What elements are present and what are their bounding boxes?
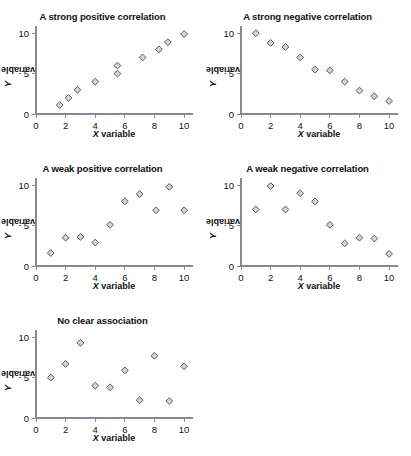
data-point [77,234,84,241]
data-point [156,46,163,53]
y-tick-label: 10 [18,180,29,191]
x-axis-label-symbol: X [93,281,99,291]
data-point [136,191,143,198]
data-point [356,234,363,241]
data-point [136,397,143,404]
data-point [166,398,173,405]
data-point [267,183,274,190]
y-tick-label: 10 [223,28,234,39]
y-tick-label: 0 [229,109,234,120]
y-axis-label: Y variable [6,342,20,406]
x-axis-label-symbol: X [298,129,304,139]
scatter-panel-1: A strong negative correlation02468100510… [205,0,410,152]
y-axis-label: Y variable [6,190,20,254]
data-point [252,30,259,37]
data-point [153,207,160,214]
data-point [341,240,348,247]
x-axis-label-word: variable [101,129,135,139]
data-point [326,67,333,74]
x-axis-label-symbol: X [93,433,99,443]
data-point [121,198,128,205]
y-tick-label: 0 [229,261,234,272]
y-tick-label: 0 [24,109,29,120]
data-point [56,102,63,109]
x-axis-label: X variable [239,281,399,291]
y-tick-label: 0 [24,413,29,424]
y-axis-label-word: variable [1,369,35,379]
x-axis-label-word: variable [306,281,340,291]
x-axis-label: X variable [34,433,194,443]
data-point [166,183,173,190]
data-point [312,198,319,205]
data-point [267,40,274,47]
data-point [47,374,54,381]
y-tick-label: 0 [24,261,29,272]
data-point [92,239,99,246]
data-point [77,339,84,346]
y-axis-label: Y variable [211,190,225,254]
data-point [151,352,158,359]
data-point [371,235,378,242]
data-series [56,31,187,109]
data-point [386,98,393,105]
data-point [47,250,54,257]
data-point [326,221,333,228]
data-point [341,78,348,85]
x-axis-label-word: variable [101,281,135,291]
data-point [297,54,304,61]
x-axis-label: X variable [239,129,399,139]
data-point [107,384,114,391]
data-point [92,78,99,85]
x-axis-label-word: variable [306,129,340,139]
data-point [121,367,128,374]
data-series [252,30,392,105]
y-axis-label-word: variable [206,65,240,75]
data-point [181,207,188,214]
y-tick-label: 10 [223,180,234,191]
data-point [386,250,393,257]
y-axis-label-word: variable [206,217,240,227]
data-point [62,234,69,241]
scatter-panel-3: A weak negative correlation02468100510Y … [205,152,410,304]
data-point [282,44,289,51]
x-axis-label-word: variable [101,433,135,443]
data-point [62,360,69,367]
data-series [47,183,187,256]
x-axis-label: X variable [34,129,194,139]
data-point [371,93,378,100]
x-axis-label-symbol: X [298,281,304,291]
y-axis-label-word: variable [1,217,35,227]
y-axis-label-symbol: Y [208,233,218,239]
x-axis-label-symbol: X [93,129,99,139]
scatter-panel-2: A weak positive correlation02468100510Y … [0,152,205,304]
data-point [312,66,319,73]
y-axis-label-symbol: Y [3,81,13,87]
data-point [114,70,121,77]
data-point [297,190,304,197]
y-axis-label-symbol: Y [3,385,13,391]
scatter-panel-4: No clear association02468100510Y variabl… [0,304,205,456]
data-series [47,339,187,404]
scatterplot-figure-grid: A strong positive correlation02468100510… [0,0,411,456]
y-tick-label: 10 [18,332,29,343]
data-point [92,382,99,389]
data-point [252,206,259,213]
x-axis-label: X variable [34,281,194,291]
data-series [252,183,392,258]
data-point [164,39,171,46]
data-point [356,87,363,94]
data-point [74,86,81,93]
data-point [181,31,188,38]
data-point [65,94,72,101]
data-point [107,221,114,228]
data-point [282,206,289,213]
y-axis-label: Y variable [211,38,225,102]
data-point [139,54,146,61]
y-tick-label: 10 [18,28,29,39]
data-point [114,62,121,69]
y-axis-label-symbol: Y [3,233,13,239]
y-axis-label: Y variable [6,38,20,102]
y-axis-label-word: variable [1,65,35,75]
y-axis-label-symbol: Y [208,81,218,87]
data-point [181,363,188,370]
